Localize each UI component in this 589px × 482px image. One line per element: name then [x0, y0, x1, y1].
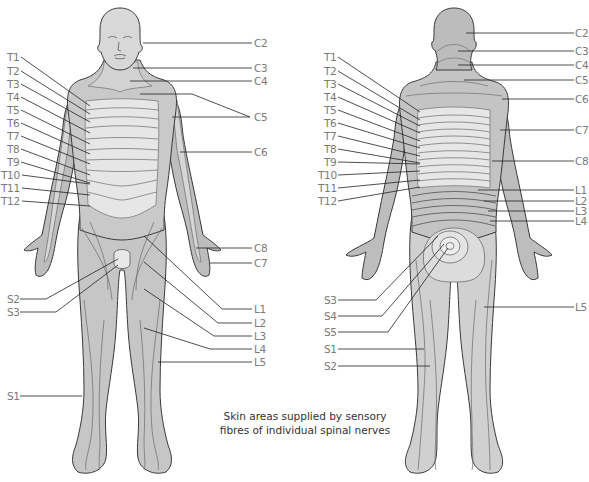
- label-front-T8: T8: [7, 144, 20, 155]
- label-front-L4: L4: [254, 344, 266, 355]
- label-back-L5: L5: [575, 302, 587, 313]
- label-back-T11: T11: [318, 183, 337, 194]
- label-front-S3: S3: [7, 307, 20, 318]
- label-front-T11: T11: [1, 183, 20, 194]
- label-back-C7: C7: [575, 125, 588, 136]
- label-back-T12: T12: [318, 196, 337, 207]
- back-thoracic-region: [417, 107, 491, 188]
- label-front-L3: L3: [254, 331, 266, 342]
- label-back-S1: S1: [324, 344, 337, 355]
- label-front-S2: S2: [7, 294, 20, 305]
- back-head: [432, 8, 477, 70]
- back-figure: [346, 8, 552, 473]
- label-front-L5: L5: [254, 357, 266, 368]
- caption-line-2: fibres of individual spinal nerves: [205, 423, 405, 437]
- label-back-C4: C4: [575, 60, 588, 71]
- label-front-C3: C3: [254, 63, 267, 74]
- back-right-arm: [346, 98, 407, 280]
- label-back-C6: C6: [575, 94, 588, 105]
- label-back-S3: S3: [324, 295, 337, 306]
- label-front-C6: C6: [254, 147, 267, 158]
- diagram-caption: Skin areas supplied by sensory fibres of…: [205, 409, 405, 437]
- label-front-C8: C8: [254, 243, 267, 254]
- label-back-T3: T3: [324, 79, 337, 90]
- label-front-T7: T7: [7, 131, 20, 142]
- label-front-T3: T3: [7, 79, 20, 90]
- label-back-T4: T4: [324, 92, 337, 103]
- label-back-C3: C3: [575, 46, 588, 57]
- label-back-T9: T9: [324, 157, 337, 168]
- label-back-S2: S2: [324, 361, 337, 372]
- label-front-T10: T10: [1, 170, 20, 181]
- front-head: [98, 8, 143, 70]
- label-back-S5: S5: [324, 327, 337, 338]
- label-front-T5: T5: [7, 105, 20, 116]
- label-back-T10: T10: [318, 170, 337, 181]
- label-front-C2: C2: [254, 38, 267, 49]
- label-back-C8: C8: [575, 156, 588, 167]
- label-back-T5: T5: [324, 105, 337, 116]
- label-front-C5: C5: [254, 112, 267, 123]
- label-back-S4: S4: [324, 311, 337, 322]
- label-front-C4: C4: [254, 76, 267, 87]
- label-front-L2: L2: [254, 318, 266, 329]
- label-front-S1: S1: [7, 391, 20, 402]
- label-front-T1: T1: [7, 52, 20, 63]
- label-back-T8: T8: [324, 144, 337, 155]
- label-front-T6: T6: [7, 118, 20, 129]
- front-figure: [24, 8, 221, 473]
- label-back-T1: T1: [324, 52, 337, 63]
- label-back-T2: T2: [324, 66, 337, 77]
- label-front-C7: C7: [254, 258, 267, 269]
- label-back-C5: C5: [575, 75, 588, 86]
- label-front-T4: T4: [7, 92, 20, 103]
- label-back-C2: C2: [575, 28, 588, 39]
- caption-line-1: Skin areas supplied by sensory: [205, 409, 405, 423]
- label-front-T9: T9: [7, 157, 20, 168]
- label-front-L1: L1: [254, 304, 266, 315]
- label-back-T6: T6: [324, 118, 337, 129]
- label-front-T2: T2: [7, 66, 20, 77]
- front-genital-region: [114, 250, 130, 269]
- label-back-L4: L4: [575, 216, 587, 227]
- label-front-T12: T12: [1, 196, 20, 207]
- label-back-T7: T7: [324, 131, 337, 142]
